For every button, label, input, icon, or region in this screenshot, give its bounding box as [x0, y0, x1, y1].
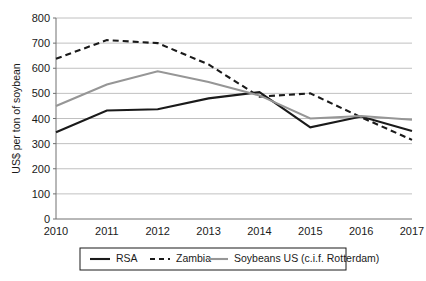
chart-canvas: 0100200300400500600700800 20102011201220… [0, 0, 426, 281]
y-tick-label: 600 [32, 62, 50, 74]
x-tick-label: 2010 [44, 225, 68, 237]
chart-legend: RSAZambiaSoybeans US (c.i.f. Rotterdam) [80, 248, 379, 270]
x-tick-label: 2014 [247, 225, 271, 237]
y-tick-label: 200 [32, 163, 50, 175]
y-tick-label: 800 [32, 12, 50, 24]
x-axis-tick-labels: 20102011201220132014201520162017 [44, 225, 424, 237]
y-tick-label: 300 [32, 138, 50, 150]
x-tick-label: 2012 [145, 225, 169, 237]
y-tick-label: 400 [32, 113, 50, 125]
series-line-zambia [56, 40, 412, 140]
x-tick-label: 2013 [196, 225, 220, 237]
x-tick-label: 2017 [400, 225, 424, 237]
legend-label: RSA [116, 252, 138, 264]
y-tick-label: 500 [32, 87, 50, 99]
y-tick-label: 100 [32, 188, 50, 200]
y-axis-title: US$ per ton of soybean [10, 63, 22, 173]
y-tick-label: 0 [44, 213, 50, 225]
y-axis-tick-labels: 0100200300400500600700800 [32, 12, 56, 225]
line-chart: 0100200300400500600700800 20102011201220… [0, 0, 426, 281]
x-tick-label: 2015 [298, 225, 322, 237]
y-tick-label: 700 [32, 37, 50, 49]
legend-label: Soybeans US (c.i.f. Rotterdam) [234, 252, 379, 264]
series-line-rsa [56, 92, 412, 132]
x-tick-label: 2016 [349, 225, 373, 237]
data-series-group [56, 40, 412, 140]
x-tick-label: 2011 [95, 225, 119, 237]
gridlines [56, 18, 412, 194]
legend-label: Zambia [176, 252, 211, 264]
y-axis-title-text: US$ per ton of soybean [10, 63, 22, 173]
